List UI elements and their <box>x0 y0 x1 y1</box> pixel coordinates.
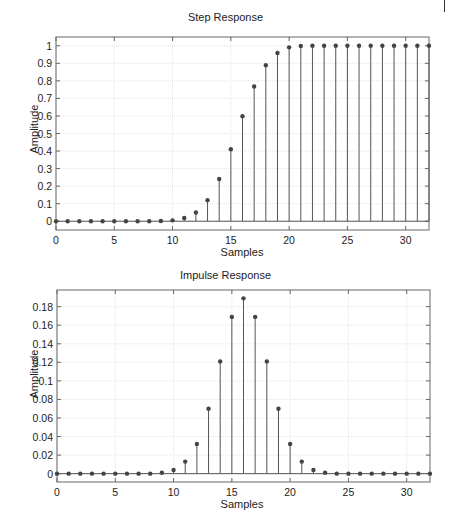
y-tick-label: 0.18 <box>33 301 54 313</box>
stem-marker <box>240 114 244 118</box>
x-tick-label: 0 <box>53 234 59 246</box>
stem-marker <box>392 44 396 48</box>
y-tick-label: 0.1 <box>37 198 52 210</box>
step-response-chart: Step Response Amplitude 05101520253000.1… <box>0 0 451 262</box>
stem-marker <box>287 45 291 49</box>
y-tick-label: 0.04 <box>33 431 54 443</box>
y-tick-label: 0.9 <box>37 57 52 69</box>
x-tick-label: 20 <box>283 234 295 246</box>
stem-marker <box>182 216 186 220</box>
stem-marker <box>252 84 256 88</box>
x-tick-label: 10 <box>167 234 179 246</box>
stem-marker <box>206 407 210 411</box>
stem-marker <box>194 210 198 214</box>
stem-marker <box>288 442 292 446</box>
x-tick-label: 30 <box>401 486 413 498</box>
stem-marker <box>276 407 280 411</box>
y-tick-label: 0.8 <box>37 75 52 87</box>
y-tick-label: 0 <box>46 215 52 227</box>
x-tick-label: 30 <box>400 234 412 246</box>
x-tick-label: 0 <box>54 486 60 498</box>
stem-marker <box>322 44 326 48</box>
stem-marker <box>346 471 350 475</box>
stem-marker <box>135 219 139 223</box>
stem-marker <box>265 359 269 363</box>
stem-marker <box>253 315 257 319</box>
stem-marker <box>136 471 140 475</box>
stem-marker <box>358 471 362 475</box>
y-tick-label: 0.08 <box>33 393 54 405</box>
stem-marker <box>218 359 222 363</box>
y-tick-label: 0.6 <box>37 110 52 122</box>
stem-marker <box>112 219 116 223</box>
stem-marker <box>100 219 104 223</box>
y-tick-label: 0.12 <box>33 356 54 368</box>
stem-marker <box>113 471 117 475</box>
stem-marker <box>229 147 233 151</box>
stem-marker <box>370 471 374 475</box>
x-tick-label: 10 <box>168 486 180 498</box>
stem-marker <box>381 471 385 475</box>
stem-marker <box>428 471 432 475</box>
stem-marker <box>195 442 199 446</box>
stem-marker <box>148 471 152 475</box>
x-tick-label: 15 <box>225 234 237 246</box>
x-tick-label: 25 <box>342 234 354 246</box>
ticks: 05101520253000.020.040.060.080.10.120.14… <box>33 290 430 498</box>
y-tick-label: 0.4 <box>37 145 52 157</box>
plot-area: 05101520253000.020.040.060.080.10.120.14… <box>0 262 451 528</box>
stem-marker <box>334 44 338 48</box>
y-tick-label: 1 <box>46 40 52 52</box>
x-tick-label: 20 <box>284 486 296 498</box>
y-tick-label: 0.16 <box>33 319 54 331</box>
y-tick-label: 0.5 <box>37 128 52 140</box>
stem-marker <box>230 315 234 319</box>
stem-marker <box>380 44 384 48</box>
impulse-response-chart: Impulse Response Amplitude 0510152025300… <box>0 262 451 528</box>
stem-marker <box>66 471 70 475</box>
stem-marker <box>90 471 94 475</box>
stem-marker <box>55 471 59 475</box>
y-tick-label: 0 <box>47 468 53 480</box>
stem-marker <box>345 44 349 48</box>
stem-marker <box>416 471 420 475</box>
x-tick-label: 5 <box>111 234 117 246</box>
x-tick-label: 25 <box>343 486 355 498</box>
stem-marker <box>125 471 129 475</box>
stem-marker <box>183 459 187 463</box>
stem-marker <box>65 219 69 223</box>
x-axis-label: Samples <box>212 498 272 510</box>
stem-marker <box>89 219 93 223</box>
stem-marker <box>101 471 105 475</box>
stem-marker <box>335 471 339 475</box>
stem-marker <box>160 471 164 475</box>
stem-marker <box>124 219 128 223</box>
stem-marker <box>78 471 82 475</box>
y-tick-label: 0.02 <box>33 449 54 461</box>
stem-marker <box>300 459 304 463</box>
stem-marker <box>415 44 419 48</box>
x-tick-label: 15 <box>226 486 238 498</box>
stem-marker <box>275 51 279 55</box>
y-tick-label: 0.06 <box>33 412 54 424</box>
stem-marker <box>393 471 397 475</box>
stem-marker <box>311 468 315 472</box>
stem-marker <box>147 219 151 223</box>
stem-marker <box>299 44 303 48</box>
stem-marker <box>427 44 431 48</box>
y-tick-label: 0.1 <box>38 375 53 387</box>
stem-marker <box>404 471 408 475</box>
y-tick-label: 0.2 <box>37 180 52 192</box>
stem-marker <box>159 219 163 223</box>
stem-marker <box>323 471 327 475</box>
stem-marker <box>241 296 245 300</box>
stem-marker <box>310 44 314 48</box>
stem-marker <box>77 219 81 223</box>
stem-marker <box>170 218 174 222</box>
plot-area: 05101520253000.10.20.30.40.50.60.70.80.9… <box>0 0 451 262</box>
stem-marker <box>369 44 373 48</box>
y-tick-label: 0.7 <box>37 92 52 104</box>
stem-marker <box>264 63 268 67</box>
y-tick-label: 0.3 <box>37 163 52 175</box>
stem-marker <box>217 177 221 181</box>
